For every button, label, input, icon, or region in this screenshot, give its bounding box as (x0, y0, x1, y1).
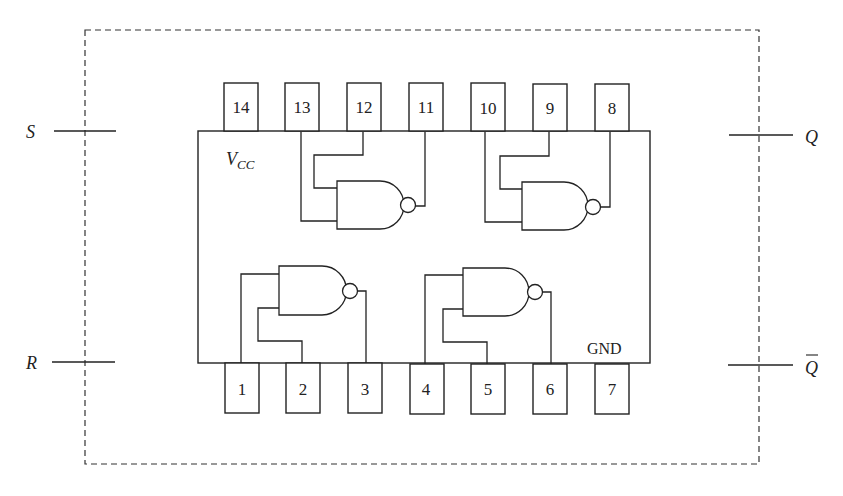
chip-body (198, 131, 650, 363)
pin-6-label: 6 (546, 380, 555, 399)
inverter-bubble-icon (586, 200, 601, 215)
pin-12-label: 12 (356, 98, 373, 117)
pin-8-label: 8 (608, 99, 617, 118)
inverter-bubble-icon (401, 198, 416, 213)
signal-s-label: S (26, 122, 35, 142)
pin-10-label: 10 (480, 99, 497, 118)
pin-3-label: 3 (361, 380, 370, 399)
sr-latch-diagram: S R Q Q 14 13 12 11 10 9 8 (0, 0, 843, 496)
signal-s: S (26, 122, 116, 142)
inverter-bubble-icon (528, 285, 543, 300)
signal-q: Q (729, 127, 818, 147)
pin-1-label: 1 (238, 380, 247, 399)
signal-q-bar-label: Q (805, 358, 818, 378)
gnd-label: GND (587, 340, 622, 357)
signal-r: R (25, 353, 115, 373)
pin-7-label: 7 (608, 380, 617, 399)
pin-13-label: 13 (294, 98, 311, 117)
signal-q-label: Q (805, 127, 818, 147)
signal-r-label: R (25, 353, 37, 373)
pin-2-label: 2 (299, 380, 308, 399)
pin-5-label: 5 (484, 380, 493, 399)
pin-11-label: 11 (418, 98, 434, 117)
pin-14-label: 14 (233, 98, 251, 117)
signal-q-bar: Q (728, 355, 818, 378)
inverter-bubble-icon (343, 284, 358, 299)
pin-4-label: 4 (422, 380, 431, 399)
pin-9-label: 9 (546, 99, 555, 118)
